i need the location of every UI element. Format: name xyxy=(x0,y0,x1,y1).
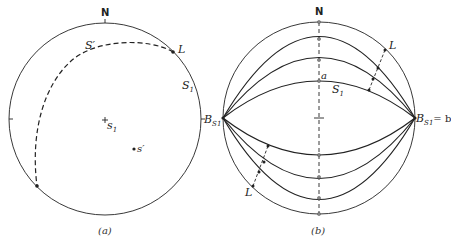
lineation-label-b-top: L xyxy=(389,40,396,51)
lineation-point-a xyxy=(171,50,175,54)
caption-a: (a) xyxy=(98,225,112,236)
s1-label-a-text: S xyxy=(182,79,190,92)
bs1-eq-b: = b xyxy=(433,113,451,124)
lineation-label-b-bottom: L xyxy=(245,187,252,198)
s1-label-b-sub: 1 xyxy=(340,90,344,98)
s1-label-a: S1 xyxy=(182,80,194,96)
lineation-label-a: L xyxy=(178,44,185,55)
bs1-label-a-text: B xyxy=(204,113,212,126)
pole-s1-sub: 1 xyxy=(113,126,117,134)
s1-label-b: S1 xyxy=(332,84,344,100)
s1-label-a-sub: 1 xyxy=(190,86,194,94)
great-circle-upper-1 xyxy=(223,37,415,119)
great-circle-s-prime xyxy=(35,43,173,186)
north-label-a: N xyxy=(101,7,109,18)
intersection-point-a xyxy=(35,184,39,188)
north-label-b: N xyxy=(315,6,323,17)
pole-s-prime xyxy=(132,147,135,150)
bs1-label-a: BS1 xyxy=(204,114,221,130)
bs1-label-b: BS1= b xyxy=(416,113,451,129)
s-prime-label: S′ xyxy=(85,40,95,51)
bs1-label-a-sub: S1 xyxy=(212,120,221,128)
bs1-label-b-sub: S1 xyxy=(424,119,433,127)
s1-label-b-text: S xyxy=(332,83,340,96)
pole-s1-label: s1 xyxy=(107,120,117,136)
bs1-label-b-text: B xyxy=(416,112,424,125)
a-axis-label: a xyxy=(321,70,327,81)
pole-s-prime-label: s′ xyxy=(137,143,144,154)
caption-b: (b) xyxy=(311,225,325,236)
